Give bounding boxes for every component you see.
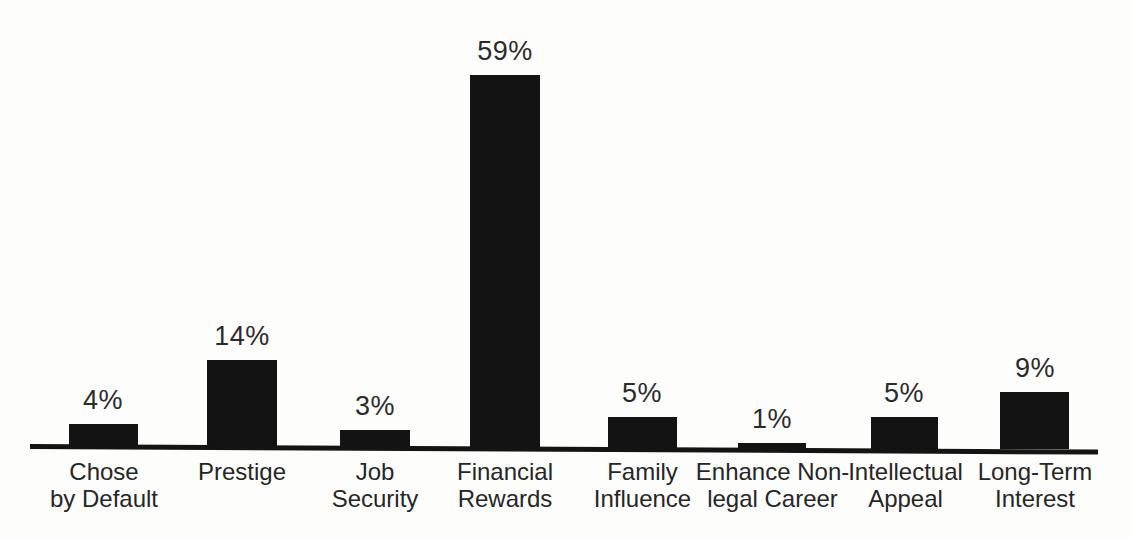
bar-value-label: 1% <box>722 404 822 435</box>
category-label-line1: Family <box>607 458 678 485</box>
category-label-prestige: Prestige <box>166 459 318 486</box>
bar-prestige <box>207 360 277 449</box>
bar-financial-rewards <box>470 75 540 449</box>
bar-value-label: 4% <box>53 385 153 416</box>
category-label-line2: legal Career <box>692 486 853 513</box>
category-label-line2: Interest <box>962 486 1108 513</box>
category-label-intellectual-appeal: Intellectual Appeal <box>833 459 978 513</box>
category-label-line1: Financial <box>457 458 553 485</box>
bar-family-influence <box>608 417 677 449</box>
bar-value-label: 5% <box>592 378 692 409</box>
bar-value-label: 9% <box>985 353 1085 384</box>
category-label-line1: Intellectual <box>848 458 963 485</box>
bar-value-label: 3% <box>325 391 425 422</box>
plot-area: 4% 14% 3% 59% 5% 1% 5% 9% <box>0 0 1131 449</box>
category-label-enhance-non-legal-career: Enhance Non- legal Career <box>692 459 853 513</box>
category-label-financial-rewards: Financial Rewards <box>428 459 582 513</box>
category-label-line1: Enhance Non- <box>696 458 849 485</box>
category-label-chose-by-default: Chose by Default <box>23 459 185 513</box>
category-label-line1: Prestige <box>198 458 286 485</box>
bar-intellectual-appeal <box>871 417 938 449</box>
category-label-long-term-interest: Long-Term Interest <box>962 459 1108 513</box>
bar-value-label: 5% <box>854 378 954 409</box>
category-label-line2: by Default <box>23 486 185 513</box>
category-label-line1: Job <box>356 458 395 485</box>
bar-value-label: 59% <box>455 36 555 67</box>
bar-chart: 4% 14% 3% 59% 5% 1% 5% 9% Chose by Defau… <box>0 0 1131 538</box>
category-label-line2: Appeal <box>833 486 978 513</box>
category-label-line1: Long-Term <box>978 458 1093 485</box>
category-label-line1: Chose <box>69 458 138 485</box>
bar-long-term-interest <box>1000 392 1069 449</box>
category-label-line2: Rewards <box>428 486 582 513</box>
bar-value-label: 14% <box>192 321 292 352</box>
